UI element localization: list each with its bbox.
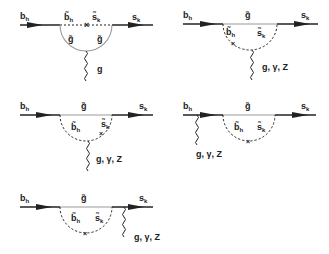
label-b-h: bh xyxy=(183,10,193,21)
diagram-1: × bh b̃h s̃k sk g̃ g̃ g xyxy=(20,11,153,81)
diagram-2: × bh g̃ sk b̃h s̃k g, γ, Z xyxy=(183,10,318,80)
label-s-k: sk xyxy=(139,193,148,204)
boson-wavy-line xyxy=(87,141,90,171)
gluon-wavy-line xyxy=(85,51,88,81)
label-bt-h: b̃h xyxy=(64,11,74,23)
arrow-icon xyxy=(36,204,52,210)
arrow-icon xyxy=(294,21,310,27)
label-b-h: bh xyxy=(20,193,30,204)
label-s-k: sk xyxy=(301,101,310,112)
mass-insertion-cross: × xyxy=(99,130,103,137)
diagram-3: × bh g̃ sk b̃h s̃k g, γ, Z xyxy=(20,101,153,171)
diagram-5: × bh g̃ sk b̃h s̃k g, γ, Z xyxy=(20,193,161,242)
label-g-gamma-z: g, γ, Z xyxy=(134,232,161,242)
label-b-h: bh xyxy=(20,101,30,112)
diagram-4: × bh g̃ sk b̃h s̃k g, γ, Z xyxy=(183,101,316,159)
label-gluino: g̃ xyxy=(81,101,87,111)
label-gluino-right: g̃ xyxy=(97,34,103,44)
feynman-diagrams-figure: × bh b̃h s̃k sk g̃ g̃ g × bh g̃ sk b̃h s… xyxy=(0,0,329,254)
boson-wavy-line xyxy=(196,115,199,145)
label-gluino-left: g̃ xyxy=(68,34,74,44)
label-st-k: s̃k xyxy=(95,212,104,224)
arrow-icon xyxy=(128,22,144,28)
arrow-icon xyxy=(36,112,52,118)
label-st-k: s̃k xyxy=(257,121,266,133)
label-bt-h: b̃h xyxy=(234,121,244,133)
label-g-gamma-z: g, γ, Z xyxy=(262,62,289,72)
label-g-gamma-z: g, γ, Z xyxy=(96,154,123,164)
label-b-h: bh xyxy=(183,101,193,112)
arrow-icon xyxy=(27,22,43,28)
label-s-k: sk xyxy=(139,101,148,112)
label-st-k: s̃k xyxy=(101,118,110,130)
label-s-k: sk xyxy=(132,12,141,23)
label-bt-h: b̃h xyxy=(226,26,236,38)
label-gluino: g̃ xyxy=(245,10,251,20)
label-gluino: g̃ xyxy=(81,193,87,203)
label-st-k: s̃k xyxy=(92,11,101,23)
label-st-k: s̃k xyxy=(257,27,266,39)
label-s-k: sk xyxy=(301,10,310,21)
mass-insertion-cross: × xyxy=(246,138,250,145)
label-bt-h: b̃h xyxy=(71,121,81,133)
label-bt-h: b̃h xyxy=(71,212,81,224)
label-gluino: g̃ xyxy=(245,101,251,111)
label-g-gamma-z: g, γ, Z xyxy=(196,149,223,159)
mass-insertion-cross: × xyxy=(84,20,89,30)
arrow-icon xyxy=(292,112,308,118)
mass-insertion-cross: × xyxy=(231,40,235,47)
arrow-icon xyxy=(128,204,144,210)
arrow-icon xyxy=(200,21,216,27)
label-g: g xyxy=(97,64,103,74)
arrow-icon xyxy=(128,112,144,118)
boson-wavy-line xyxy=(123,207,126,237)
mass-insertion-cross: × xyxy=(83,230,87,237)
arrow-icon xyxy=(200,112,216,118)
label-b-h: bh xyxy=(20,11,30,22)
boson-wavy-line xyxy=(251,50,254,80)
